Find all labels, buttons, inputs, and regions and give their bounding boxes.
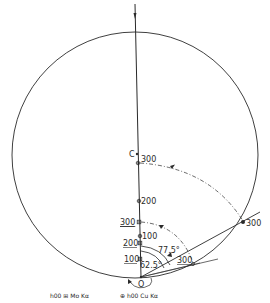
mo-rotation-arrow-icon [159, 225, 164, 229]
mo-label-100: 100 [124, 255, 139, 264]
cu-rotated-point-300 [241, 220, 245, 224]
legend-mo: h00 ⊞ Mo Kα [50, 292, 89, 299]
origin-point [140, 276, 142, 278]
ewald-diagram: C 300 200 100 300 200 100 [0, 0, 270, 303]
cu-rotation-arrow-icon [170, 165, 175, 170]
center-label: C [129, 150, 135, 159]
mo-point-200 [138, 241, 142, 245]
cu-label-300: 300 [141, 155, 156, 164]
mo-rotated-label-300: 300 [177, 256, 192, 265]
cu-point-300 [136, 161, 140, 165]
legend-cu: ⊕ h00 Cu Kα [120, 292, 158, 299]
cu-rotated-label-300: 300 [246, 219, 261, 228]
mo-label-300: 300 [120, 218, 135, 227]
angle-label-inner: 62.5° [140, 261, 162, 270]
cu-label-200: 200 [141, 197, 156, 206]
beam-arrow-icon [134, 13, 137, 19]
cu-label-100: 100 [142, 232, 157, 241]
angle-label-outer: 77.5° [158, 246, 180, 255]
center-point [136, 153, 138, 155]
mo-label-200: 200 [123, 239, 138, 248]
cu-rotation-arc [140, 163, 243, 221]
